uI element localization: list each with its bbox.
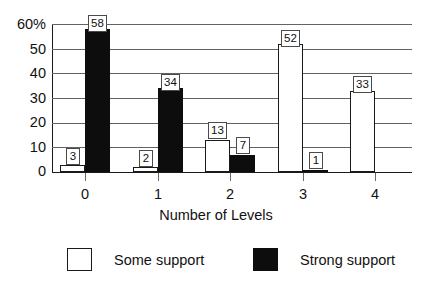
bar-some-support-2 bbox=[205, 140, 230, 172]
legend-item-some-support: Some support bbox=[67, 248, 204, 271]
legend-label-strong-support: Strong support bbox=[300, 252, 395, 268]
bar-strong-support-2 bbox=[230, 155, 255, 172]
x-axis-title: Number of Levels bbox=[0, 207, 432, 223]
value-label-some-support-1: 2 bbox=[139, 150, 153, 167]
x-tick-mark-1 bbox=[158, 173, 159, 181]
x-tick-label-4: 4 bbox=[360, 186, 390, 202]
value-label-some-support-0: 3 bbox=[66, 148, 80, 165]
x-tick-mark-2 bbox=[230, 173, 231, 181]
value-label-some-support-4: 33 bbox=[353, 76, 372, 93]
legend-swatch-some-support-icon bbox=[67, 248, 92, 271]
chart-legend: Some support Strong support bbox=[0, 248, 432, 282]
value-label-strong-support-2: 7 bbox=[236, 137, 250, 154]
legend-swatch-strong-support-icon bbox=[253, 248, 278, 271]
bar-some-support-3 bbox=[278, 44, 303, 172]
value-label-strong-support-1: 34 bbox=[161, 74, 180, 91]
x-tick-mark-4 bbox=[375, 173, 376, 181]
x-tick-label-3: 3 bbox=[288, 186, 318, 202]
bar-chart-figure: 60% 50 40 30 20 10 0 3 58 2 34 13 bbox=[0, 0, 432, 289]
bar-some-support-0 bbox=[60, 165, 85, 172]
value-label-strong-support-0: 58 bbox=[88, 15, 107, 32]
y-tick-label-40: 40 bbox=[0, 65, 46, 81]
y-tick-label-60: 60% bbox=[0, 16, 46, 32]
legend-item-strong-support: Strong support bbox=[253, 248, 395, 271]
y-tick-label-30: 30 bbox=[0, 90, 46, 106]
y-tick-label-20: 20 bbox=[0, 114, 46, 130]
bar-some-support-4 bbox=[350, 91, 375, 172]
y-tick-label-10: 10 bbox=[0, 139, 46, 155]
value-label-some-support-3: 52 bbox=[281, 30, 300, 47]
legend-label-some-support: Some support bbox=[114, 252, 204, 268]
bar-some-support-1 bbox=[133, 167, 158, 172]
plot-area: 3 58 2 34 13 7 52 1 33 bbox=[52, 24, 412, 172]
x-tick-mark-0 bbox=[85, 173, 86, 181]
y-tick-label-0: 0 bbox=[0, 163, 46, 179]
gridline-baseline-0 bbox=[52, 172, 412, 173]
value-label-strong-support-3: 1 bbox=[309, 152, 323, 169]
x-tick-mark-3 bbox=[303, 173, 304, 181]
value-label-some-support-2: 13 bbox=[208, 122, 227, 139]
x-tick-label-0: 0 bbox=[70, 186, 100, 202]
x-tick-label-2: 2 bbox=[215, 186, 245, 202]
bar-strong-support-3 bbox=[303, 170, 328, 173]
bar-strong-support-1 bbox=[158, 88, 183, 172]
x-tick-label-1: 1 bbox=[143, 186, 173, 202]
y-tick-label-50: 50 bbox=[0, 41, 46, 57]
bar-strong-support-0 bbox=[85, 29, 110, 172]
